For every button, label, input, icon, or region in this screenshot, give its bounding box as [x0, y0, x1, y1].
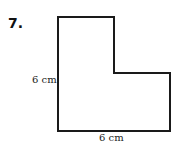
bottom-side-label: 6 cm — [99, 132, 124, 143]
l-shape — [58, 17, 170, 131]
left-side-label: 6 cm — [32, 74, 57, 85]
l-shape-diagram: 6 cm 6 cm — [0, 0, 188, 149]
